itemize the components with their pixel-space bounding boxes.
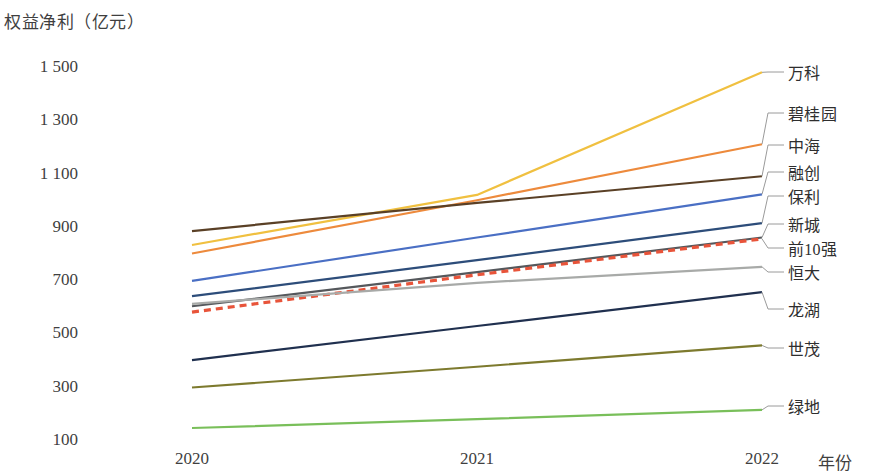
series-leader-line [762, 172, 784, 194]
series-line [192, 410, 762, 428]
series-line [192, 239, 762, 312]
x-axis-title: 年份 [818, 449, 852, 474]
series-leader-line [762, 224, 784, 238]
series-label: 龙湖 [788, 297, 821, 321]
series-line [192, 72, 762, 245]
series-leader-line [762, 267, 784, 272]
series-line [192, 345, 762, 387]
series-label: 恒大 [788, 260, 821, 284]
series-label: 中海 [788, 133, 821, 157]
line-chart: 权益净利（亿元） 1 5001 3001 100900700500300100 … [0, 0, 869, 474]
x-axis-tick: 2021 [460, 449, 494, 469]
series-leader-line [762, 406, 784, 410]
series-label: 保利 [788, 184, 821, 208]
series-label: 万科 [788, 60, 821, 84]
series-line [192, 176, 762, 231]
series-leader-line [762, 345, 784, 348]
plot-area [0, 0, 869, 474]
series-leader-line [762, 292, 784, 309]
series-leader-line [762, 239, 784, 248]
series-label: 绿地 [788, 394, 821, 418]
series-label: 融创 [788, 160, 821, 184]
series-leader-line [762, 113, 784, 144]
series-label: 新城 [788, 212, 821, 236]
x-axis-tick: 2020 [175, 449, 209, 469]
series-label: 碧桂园 [788, 101, 837, 125]
series-label: 前10强 [788, 236, 837, 260]
series-line [192, 223, 762, 296]
x-axis-tick: 2022 [745, 449, 779, 469]
series-leader-line [762, 196, 784, 223]
series-label: 世茂 [788, 336, 821, 360]
